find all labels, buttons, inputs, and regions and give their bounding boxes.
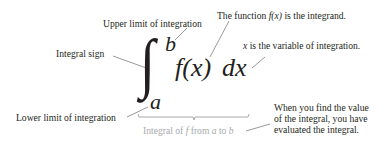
brace-label-mid: from <box>188 125 211 136</box>
upper-limit: b <box>165 33 176 55</box>
integrand: f(x) <box>175 55 211 81</box>
integral-sign: ∫ <box>140 30 155 96</box>
brace-label: Integral of f from a to b <box>143 126 234 136</box>
integral-diagram: ∫ b a f(x) dx Upper limit of integration… <box>0 0 387 150</box>
brace-label-b: b <box>229 125 234 136</box>
lower-limit: a <box>150 91 161 113</box>
integral-sign-label: Integral sign <box>56 49 104 59</box>
evaluate-line-2: of the integral, you have <box>274 113 369 124</box>
integrand-label-math: f(x) <box>269 10 282 21</box>
integrand-label: The function f(x) is the integrand. <box>217 11 346 21</box>
evaluate-line-1: When you find the value <box>274 102 369 113</box>
brace-label-to: to <box>217 125 229 136</box>
evaluate-leader <box>246 124 270 131</box>
integrand-label-suffix: is the integrand. <box>282 10 346 21</box>
upper-limit-label: Upper limit of integration <box>103 19 202 29</box>
upper-limit-leader <box>175 28 187 40</box>
lower-limit-label: Lower limit of integration <box>16 113 116 123</box>
variable-label-suffix: is the variable of integration. <box>247 40 360 51</box>
evaluate-label: When you find the value of the integral,… <box>274 102 369 136</box>
integrand-leader <box>210 21 229 57</box>
evaluate-line-3: evaluated the integral. <box>274 124 369 135</box>
lower-limit-leader <box>127 107 148 117</box>
brace-label-prefix: Integral of <box>143 125 186 136</box>
variable-label: x is the variable of integration. <box>243 41 360 51</box>
underbrace <box>138 114 249 120</box>
differential: dx <box>222 55 247 81</box>
integrand-label-prefix: The function <box>217 10 269 21</box>
variable-leader <box>252 57 265 68</box>
